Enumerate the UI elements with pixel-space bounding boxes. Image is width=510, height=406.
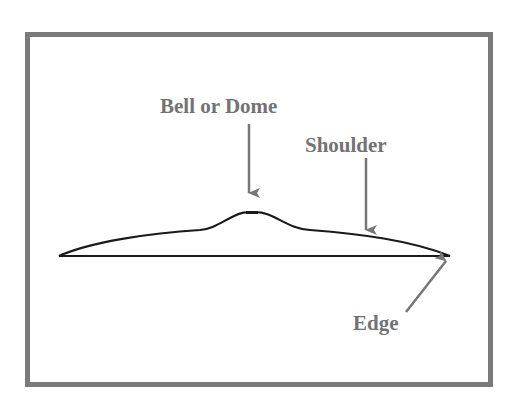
label-edge: Edge: [353, 311, 399, 335]
diagram-svg: Bell or Dome Shoulder Edge: [0, 0, 510, 406]
profile-curve: [59, 212, 450, 256]
label-bell-or-dome: Bell or Dome: [160, 94, 277, 118]
arrow-edge: [406, 261, 446, 312]
diagram-canvas: Bell or Dome Shoulder Edge: [0, 0, 510, 406]
frame-border: [28, 35, 491, 385]
label-shoulder: Shoulder: [305, 133, 387, 157]
